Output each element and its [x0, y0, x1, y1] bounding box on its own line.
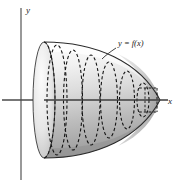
x-axis-label: x [167, 96, 172, 106]
y-axis-label: y [25, 5, 30, 15]
curve-equation-label: y = f(x) [117, 38, 144, 48]
figure-canvas: x y y = f(x) [0, 0, 180, 187]
solid-of-revolution-figure: x y y = f(x) [0, 0, 180, 187]
